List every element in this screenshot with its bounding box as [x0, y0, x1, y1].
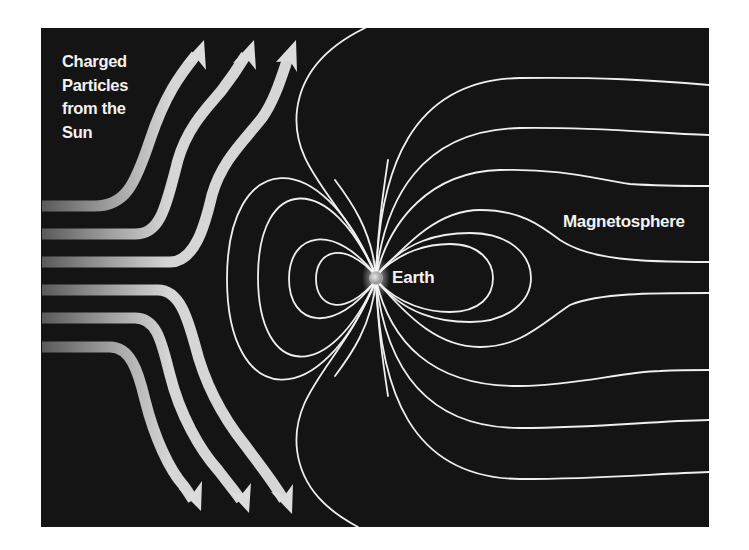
label-magnetosphere: Magnetosphere — [563, 212, 685, 232]
label-line: Particles — [62, 74, 128, 98]
label-charged-particles: Charged Particles from the Sun — [62, 50, 128, 144]
label-line: Sun — [62, 121, 128, 145]
earth — [362, 256, 390, 300]
label-line: Charged — [62, 50, 128, 74]
label-earth: Earth — [392, 268, 434, 288]
label-line: from the — [62, 97, 128, 121]
magnetosphere-diagram: Charged Particles from the Sun Earth Mag… — [0, 0, 749, 550]
earth-globe — [370, 272, 383, 285]
